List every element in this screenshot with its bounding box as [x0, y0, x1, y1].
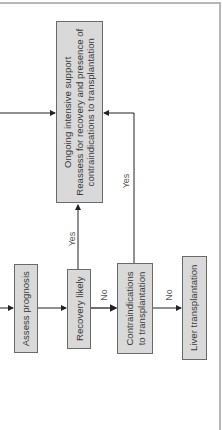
node-assess-prognosis-text: Assess prognosis [20, 271, 32, 346]
node-text-line: Recovery likely [73, 277, 85, 342]
node-recovery-likely-text: Recovery likely [73, 277, 85, 342]
node-contraindications-text: Contraindications to transplantation [124, 271, 147, 345]
node-liver-transplantation: Liver transplantation [182, 256, 207, 360]
node-liver-transplantation-text: Liver transplantation [189, 265, 201, 351]
node-contraindications: Contraindications to transplantation [117, 263, 153, 354]
connector-lines [0, 0, 222, 430]
node-text-line: Assess prognosis [20, 271, 32, 346]
node-ongoing-support: Ongoing intensive support Reassess for r… [56, 21, 103, 203]
node-text-line: Ongoing intensive support [62, 29, 74, 196]
node-ongoing-support-text: Ongoing intensive support Reassess for r… [62, 29, 97, 196]
edge-label-recovery-no: No [99, 289, 109, 301]
node-text-line: Liver transplantation [189, 265, 201, 351]
edge-label-contra-yes: Yes [121, 174, 131, 189]
node-text-line: Reassess for recovery and presence of [74, 29, 86, 196]
edge-label-contra-no: No [164, 289, 174, 301]
node-text-line: to transplantation [135, 271, 147, 345]
edge-label-recovery-yes: Yes [67, 232, 77, 247]
node-recovery-likely: Recovery likely [67, 269, 91, 349]
node-assess-prognosis: Assess prognosis [14, 264, 38, 353]
node-text-line: Contraindications [124, 271, 136, 345]
node-text-line: contraindications to transplantation [85, 29, 97, 196]
